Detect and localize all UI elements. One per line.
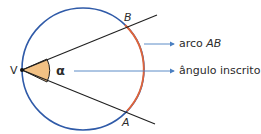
line-va bbox=[22, 70, 155, 124]
angle-symbol: α bbox=[56, 64, 65, 77]
callout-arc-label: arco AB bbox=[179, 38, 221, 49]
callout-arc-text: arco bbox=[179, 37, 206, 50]
point-b-label: B bbox=[124, 12, 132, 23]
arc-ab bbox=[125, 25, 144, 111]
point-a-label: A bbox=[122, 117, 130, 128]
callout-angle-label: ângulo inscrito bbox=[179, 65, 260, 76]
angle-wedge bbox=[22, 59, 50, 82]
vertex-label: V bbox=[10, 65, 18, 76]
vertex-point bbox=[20, 68, 24, 72]
callout-arc-italic: AB bbox=[206, 37, 221, 50]
